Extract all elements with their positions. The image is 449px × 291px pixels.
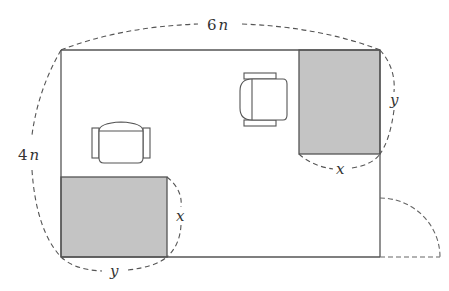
top-right-width-label: x (336, 160, 345, 178)
top-right-height-label: y (389, 91, 399, 109)
tr-height-arc-bottom (380, 110, 394, 154)
floor-plan-diagram: 6n 4n y x y x (0, 0, 449, 291)
room-height-label: 4n (18, 146, 39, 164)
bl-height-arc-bottom (167, 225, 181, 257)
bl-height-arc-top (167, 177, 181, 207)
armchair-icon (240, 73, 287, 126)
width-arc-right (242, 24, 380, 50)
armchair-icon (92, 122, 150, 163)
tr-height-arc-top (380, 50, 394, 92)
shaded-region-top-right (299, 50, 380, 154)
height-arc-top (32, 50, 61, 135)
height-arc-bottom (32, 170, 61, 257)
bl-width-arc-left (61, 257, 102, 271)
door-swing (380, 198, 440, 257)
bottom-left-height-label: x (176, 207, 185, 225)
tr-width-arc-left (299, 154, 333, 169)
width-arc-left (61, 24, 198, 50)
bl-width-arc-right (128, 257, 167, 270)
tr-width-arc-right (352, 154, 380, 168)
shaded-region-bottom-left (61, 177, 167, 257)
bottom-left-width-label: y (109, 262, 119, 280)
room-width-label: 6n (207, 16, 228, 34)
